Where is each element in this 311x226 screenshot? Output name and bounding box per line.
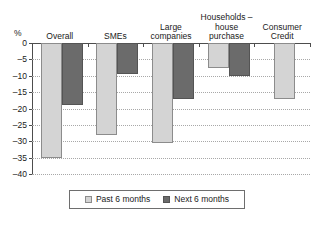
legend-label: Past 6 months (96, 195, 150, 204)
bar-next-6-months (62, 43, 83, 105)
y-axis-tick-label: –10 (13, 71, 27, 80)
legend-label: Next 6 months (174, 195, 229, 204)
gridline (32, 174, 310, 175)
y-axis-tick-label: 0 (22, 39, 27, 48)
y-axis-tick (29, 141, 32, 142)
legend-item-next-6-months[interactable]: Next 6 months (163, 195, 229, 204)
bar-past-6-months (152, 43, 173, 143)
y-axis-tick-label: –15 (13, 88, 27, 97)
y-axis-tick-label: –20 (13, 104, 27, 113)
legend-swatch-icon (163, 196, 170, 203)
group-separator-tick (143, 43, 144, 47)
bar-next-6-months (229, 43, 250, 76)
y-axis-tick (29, 59, 32, 60)
y-axis-tick-label: –30 (13, 137, 27, 146)
bar-past-6-months (41, 43, 62, 158)
bar-next-6-months (117, 43, 138, 74)
group-separator-tick (88, 43, 89, 47)
bar-past-6-months (208, 43, 229, 68)
y-axis-tick-label: –40 (13, 170, 27, 179)
y-axis-tick (29, 125, 32, 126)
y-axis-unit-label: % (14, 29, 22, 38)
y-axis-tick-label: –25 (13, 120, 27, 129)
legend-swatch-icon (85, 196, 92, 203)
y-axis-tick-label: –5 (18, 55, 27, 64)
bar-past-6-months (274, 43, 295, 99)
bar-past-6-months (96, 43, 117, 135)
y-axis-tick (29, 76, 32, 77)
y-axis-tick (29, 109, 32, 110)
group-separator-tick (254, 43, 255, 47)
y-axis-tick (29, 158, 32, 159)
y-axis-tick-label: –35 (13, 153, 27, 162)
category-label: Consumer Credit (254, 23, 310, 42)
group-separator-tick (199, 43, 200, 47)
chart-legend: Past 6 monthsNext 6 months (69, 190, 245, 209)
bar-next-6-months (173, 43, 194, 99)
plot-area: 0–5–10–15–20–25–30–35–40 (32, 43, 310, 174)
bank-lending-survey-bar-chart: % OverallSMEsLarge companiesHouseholds –… (0, 0, 311, 226)
category-label: SMEs (88, 32, 144, 42)
category-label: Households – house purchase (199, 13, 255, 42)
y-axis-tick (29, 174, 32, 175)
legend-item-past-6-months[interactable]: Past 6 months (85, 195, 150, 204)
gridline (32, 158, 310, 159)
y-axis-tick (29, 43, 32, 44)
group-separator-tick (310, 43, 311, 47)
category-label-row: OverallSMEsLarge companiesHouseholds – h… (32, 2, 310, 42)
category-label: Overall (32, 32, 88, 42)
category-label: Large companies (143, 23, 199, 42)
y-axis-tick (29, 92, 32, 93)
